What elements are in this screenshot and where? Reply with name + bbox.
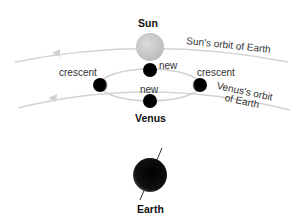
venus-phases-diagram: Sun Sun's orbit of Earth crescent new cr… bbox=[0, 0, 301, 224]
sun-label: Sun bbox=[138, 17, 158, 29]
new-bottom-label: new bbox=[140, 84, 158, 95]
crescent-left-label: crescent bbox=[59, 67, 97, 78]
earth-label: Earth bbox=[137, 203, 164, 215]
crescent-right-label: crescent bbox=[197, 67, 235, 78]
venus-label: Venus bbox=[135, 112, 166, 124]
earth-icon bbox=[133, 158, 167, 192]
venus-new-top-icon bbox=[143, 63, 157, 77]
sun-icon bbox=[136, 33, 164, 61]
new-top-label: new bbox=[159, 60, 177, 71]
venus-new-bottom-icon bbox=[143, 94, 157, 108]
